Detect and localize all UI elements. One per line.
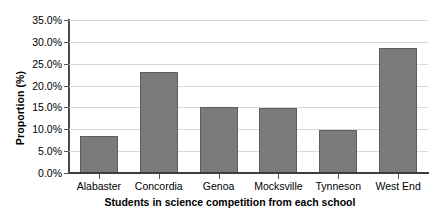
x-axis-tick-mark <box>338 174 339 179</box>
gridline <box>69 86 428 87</box>
x-axis-tick-mark <box>219 174 220 179</box>
x-axis-tick-mark <box>99 174 100 179</box>
y-axis-tick-label: 20.0% <box>16 80 62 92</box>
y-axis-tick-labels: 0.0%5.0%10.0%15.0%20.0%25.0%30.0%35.0% <box>16 13 62 180</box>
y-axis-tick-mark <box>64 107 69 108</box>
y-axis-tick-mark <box>64 42 69 43</box>
y-axis-tick-label: 15.0% <box>16 101 62 113</box>
x-axis-tick-label: West End <box>360 180 436 192</box>
bar <box>379 48 417 173</box>
x-axis-title: Students in science competition from eac… <box>40 196 420 208</box>
y-axis-tick-label: 0.0% <box>16 167 62 179</box>
y-axis-tick-mark <box>64 173 69 174</box>
y-axis-tick-label: 30.0% <box>16 36 62 48</box>
gridline <box>69 151 428 152</box>
y-axis-tick-label: 10.0% <box>16 123 62 135</box>
gridline <box>69 129 428 130</box>
bar <box>80 136 118 173</box>
gridline <box>69 107 428 108</box>
bar <box>200 107 238 173</box>
y-axis-tick-label: 5.0% <box>16 145 62 157</box>
bar <box>319 130 357 173</box>
y-axis-tick-mark <box>64 151 69 152</box>
y-axis-tick-mark <box>64 20 69 21</box>
gridline <box>69 64 428 65</box>
y-axis-tick-label: 25.0% <box>16 58 62 70</box>
y-axis-tick-mark <box>64 86 69 87</box>
bar <box>140 72 178 173</box>
y-axis-tick-mark <box>64 64 69 65</box>
x-axis-tick-mark <box>278 174 279 179</box>
plot-area <box>69 20 428 173</box>
x-axis-tick-mark <box>398 174 399 179</box>
gridline <box>69 42 428 43</box>
x-axis-tick-mark <box>159 174 160 179</box>
bar <box>259 108 297 173</box>
gridline <box>69 20 428 21</box>
y-axis-tick-mark <box>64 129 69 130</box>
bar-chart: Proportion (%) 0.0%5.0%10.0%15.0%20.0%25… <box>0 0 440 216</box>
y-axis-tick-label: 35.0% <box>16 14 62 26</box>
x-axis-line <box>68 172 429 174</box>
